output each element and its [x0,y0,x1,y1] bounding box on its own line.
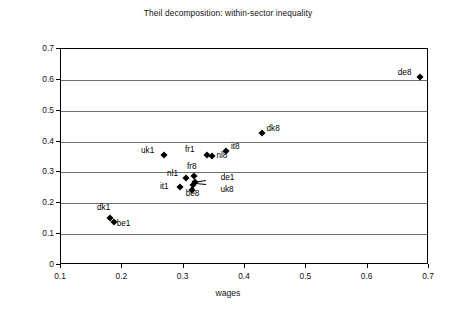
gridline [61,172,427,173]
data-point-label: fr8 [187,163,197,171]
y-axis-tick-label: 0.4 [20,137,54,145]
x-axis-tick-mark [367,264,368,268]
data-point-marker [183,175,190,182]
y-axis-tick-label: 0.2 [20,198,54,206]
x-axis-tick-mark [183,264,184,268]
y-axis-tick-label: 0.3 [20,167,54,175]
x-axis-tick-mark [244,264,245,268]
data-point-label: nl1 [167,170,178,178]
data-point-label: de8 [398,69,412,77]
scatter-chart: Theil decomposition: within-sector inequ… [0,0,456,309]
gridline [61,142,427,143]
data-point-label: de1 [221,174,235,182]
x-axis-tick-label: 0.6 [350,272,384,280]
x-axis-tick-label: 0.7 [411,272,445,280]
y-axis-tick-label: 0.6 [20,75,54,83]
x-axis-tick-mark [305,264,306,268]
x-axis-tick-label: 0.1 [43,272,77,280]
chart-title: Theil decomposition: within-sector inequ… [0,8,456,18]
y-axis-tick-label: 0.1 [20,229,54,237]
data-point-label: be8 [186,190,200,198]
gridline [61,80,427,81]
data-point-label: nl8 [216,152,227,160]
data-point-label: it1 [160,183,169,191]
x-axis-tick-label: 0.2 [104,272,138,280]
y-axis-tick-label: 0 [20,260,54,268]
data-point-label: be1 [117,220,131,228]
data-point-label: fr1 [185,146,195,154]
y-axis-tick-label: 0.7 [20,44,54,52]
data-point-marker [160,152,167,159]
x-axis-tick-label: 0.4 [227,272,261,280]
x-axis-tick-mark [60,264,61,268]
data-point-marker [209,153,216,160]
data-point-marker [176,183,183,190]
x-axis-title: wages [0,288,456,298]
y-axis-tick-label: 0.5 [20,106,54,114]
data-point-label: dk1 [97,204,110,212]
x-axis-tick-label: 0.3 [166,272,200,280]
gridline [61,203,427,204]
data-point-label: it8 [231,143,240,151]
data-point-label: dk8 [267,125,280,133]
x-axis-tick-mark [428,264,429,268]
data-point-label: uk8 [220,186,233,194]
x-axis-tick-mark [121,264,122,268]
gridline [61,111,427,112]
x-axis-tick-label: 0.5 [288,272,322,280]
data-point-marker [258,129,265,136]
gridline [61,234,427,235]
data-point-label: uk1 [141,147,154,155]
plot-area: de8dk8it8uk1fr1nl8fr8nl1de1uk8it1be8dk1b… [60,48,428,264]
